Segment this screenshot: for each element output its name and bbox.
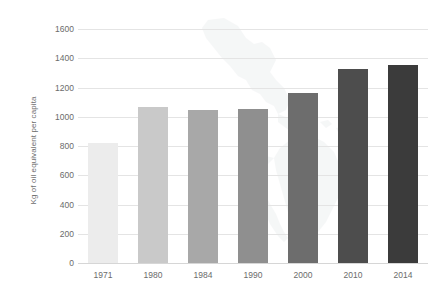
bar-series — [78, 29, 428, 263]
bar-slot — [88, 29, 118, 263]
bar-slot — [388, 29, 418, 263]
bar-slot — [288, 29, 318, 263]
y-axis-tick-label: 1400 — [34, 53, 74, 63]
bar[interactable] — [138, 107, 168, 263]
bar[interactable] — [338, 69, 368, 264]
bar[interactable] — [88, 143, 118, 263]
bar-slot — [238, 29, 268, 263]
x-axis-tick-label: 2010 — [344, 270, 363, 280]
bar-slot — [138, 29, 168, 263]
y-axis-tick-label: 200 — [34, 229, 74, 239]
y-axis-tick-label: 600 — [34, 170, 74, 180]
y-axis-tick-label: 800 — [34, 141, 74, 151]
y-axis-tick-label: 1200 — [34, 83, 74, 93]
y-axis-tick-label: 1000 — [34, 112, 74, 122]
bar[interactable] — [188, 110, 218, 263]
y-axis-tick-label: 400 — [34, 200, 74, 210]
x-axis-tick-label: 1984 — [194, 270, 213, 280]
bar[interactable] — [238, 109, 268, 263]
axis-baseline — [78, 263, 428, 264]
x-axis-tick-label: 2000 — [294, 270, 313, 280]
bar-slot — [338, 29, 368, 263]
bar[interactable] — [288, 93, 318, 263]
plot-area — [78, 29, 428, 263]
x-axis-tick-label: 1980 — [144, 270, 163, 280]
x-axis-tick-label: 1990 — [244, 270, 263, 280]
bar[interactable] — [388, 65, 418, 263]
y-axis-tick-label: 0 — [34, 258, 74, 268]
bar-chart: Kg of oil equivalent per capita 02004006… — [0, 0, 448, 304]
y-axis-tick-labels: 02004006008001000120014001600 — [30, 29, 74, 263]
x-axis-tick-label: 1971 — [94, 270, 113, 280]
x-axis-tick-label: 2014 — [394, 270, 413, 280]
y-axis-tick-label: 1600 — [34, 24, 74, 34]
bar-slot — [188, 29, 218, 263]
